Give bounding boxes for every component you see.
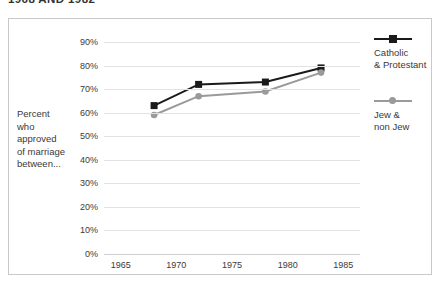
y-axis-title-line: who bbox=[17, 121, 85, 134]
y-axis-tick-label: 10% bbox=[80, 225, 98, 235]
data-point-marker bbox=[195, 93, 202, 100]
y-gridline bbox=[104, 207, 360, 208]
data-point-marker bbox=[195, 81, 202, 88]
series-lines bbox=[104, 42, 360, 254]
legend-entry-catholic-protestant: Catholic& Protestant bbox=[374, 34, 436, 72]
y-axis-title: Percentwhoapprovedof marriagebetween... bbox=[17, 108, 85, 171]
y-axis-title-line: Percent bbox=[17, 108, 85, 121]
x-axis-tick-label: 1970 bbox=[166, 260, 186, 270]
plot-area: 0%10%20%30%40%50%60%70%80%90%19651970197… bbox=[104, 42, 360, 254]
x-axis-tick-label: 1985 bbox=[333, 260, 353, 270]
legend-swatch-icon bbox=[374, 34, 412, 44]
y-axis-tick-label: 0% bbox=[85, 249, 98, 259]
page-title: 1968 AND 1982 bbox=[8, 0, 95, 5]
y-axis-tick-label: 40% bbox=[80, 155, 98, 165]
y-gridline bbox=[104, 113, 360, 114]
y-axis-tick-label: 50% bbox=[80, 131, 98, 141]
y-gridline bbox=[104, 66, 360, 67]
y-axis-title-line: approved bbox=[17, 133, 85, 146]
series-line bbox=[154, 68, 321, 106]
y-axis-tick-label: 80% bbox=[80, 61, 98, 71]
legend-entry-jew-nonjew: Jew &non Jew bbox=[374, 96, 436, 134]
data-point-marker bbox=[151, 102, 158, 109]
chart-legend: Catholic& ProtestantJew &non Jew bbox=[374, 34, 436, 158]
y-axis-tick-label: 20% bbox=[80, 202, 98, 212]
legend-label: Catholic& Protestant bbox=[374, 47, 436, 72]
y-gridline bbox=[104, 42, 360, 43]
y-gridline bbox=[104, 230, 360, 231]
y-gridline bbox=[104, 160, 360, 161]
y-axis-tick-label: 90% bbox=[80, 37, 98, 47]
x-axis-tick-label: 1975 bbox=[222, 260, 242, 270]
data-point-marker bbox=[318, 69, 325, 76]
y-gridline bbox=[104, 183, 360, 184]
y-axis-title-line: of marriage bbox=[17, 146, 85, 159]
x-axis-tick-label: 1980 bbox=[278, 260, 298, 270]
y-axis-tick-label: 60% bbox=[80, 108, 98, 118]
y-axis-title-line: between... bbox=[17, 158, 85, 171]
legend-label: Jew &non Jew bbox=[374, 109, 436, 134]
x-axis-tick-label: 1965 bbox=[111, 260, 131, 270]
y-gridline bbox=[104, 254, 360, 255]
legend-swatch-icon bbox=[374, 96, 412, 106]
y-axis-tick-label: 30% bbox=[80, 178, 98, 188]
y-gridline bbox=[104, 136, 360, 137]
y-axis-tick-label: 70% bbox=[80, 84, 98, 94]
data-point-marker bbox=[262, 79, 269, 86]
y-gridline bbox=[104, 89, 360, 90]
